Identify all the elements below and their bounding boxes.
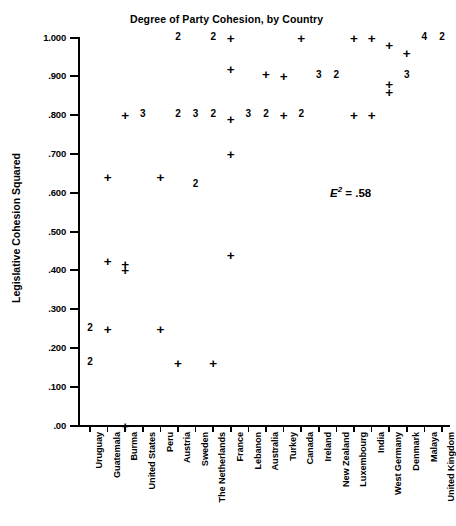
x-axis-label-austria: Austria [182, 432, 192, 526]
y-tick-mark [70, 153, 78, 155]
data-point: 3 [241, 109, 255, 121]
data-point: + [277, 70, 291, 82]
x-tick-mark [388, 427, 390, 432]
data-point: + [365, 32, 379, 44]
data-point: + [224, 113, 238, 125]
x-axis-label-india: India [376, 432, 386, 526]
x-axis-label-west-germany: West Germany [393, 432, 403, 526]
y-tick-mark [70, 192, 78, 194]
data-point: + [118, 109, 132, 121]
x-axis-label-malaya: Malaya [429, 432, 439, 526]
x-tick-mark [177, 427, 179, 432]
data-point: 2 [171, 32, 185, 44]
x-axis-label-new-zealand: New Zealand [341, 432, 351, 526]
data-point: 2 [83, 323, 97, 335]
e-squared-annotation: E2 = .58 [330, 185, 371, 199]
y-tick-label: .300 [24, 303, 66, 314]
x-axis-label-denmark: Denmark [411, 432, 421, 526]
x-axis-label-lebanon: Lebanon [253, 432, 263, 526]
x-tick-mark [371, 427, 373, 432]
x-tick-mark [353, 427, 355, 432]
data-point: + [153, 323, 167, 335]
y-axis-line [78, 37, 80, 427]
e-squared-symbol: E [330, 187, 338, 199]
x-tick-mark [142, 427, 144, 432]
data-point: + [224, 32, 238, 44]
data-point: 2 [435, 32, 449, 44]
y-tick-label: .700 [24, 148, 66, 159]
data-point: + [206, 357, 220, 369]
x-axis-label-united-states: United States [147, 432, 157, 526]
data-point: + [365, 109, 379, 121]
data-point: 2 [206, 109, 220, 121]
y-tick-mark [70, 75, 78, 77]
x-tick-mark [300, 427, 302, 432]
data-point: + [347, 32, 361, 44]
x-tick-mark [406, 427, 408, 432]
data-point: 2 [259, 109, 273, 121]
data-point: + [101, 255, 115, 267]
x-axis-label-turkey: Turkey [288, 432, 298, 526]
x-axis-label-luxembourg: Luxembourg [358, 432, 368, 526]
data-point: 2 [294, 109, 308, 121]
data-point: + [347, 109, 361, 121]
x-tick-mark [230, 427, 232, 432]
y-tick-label: .800 [24, 109, 66, 120]
y-tick-label: .400 [24, 264, 66, 275]
data-point: + [277, 109, 291, 121]
y-tick-label: .900 [24, 70, 66, 81]
y-tick-mark [70, 347, 78, 349]
x-axis-label-australia: Australia [270, 432, 280, 526]
x-tick-mark [107, 427, 109, 432]
x-axis-label-ireland: Ireland [323, 432, 333, 526]
data-point: 3 [136, 109, 150, 121]
y-tick-mark [70, 231, 78, 233]
data-point: 3 [189, 109, 203, 121]
x-tick-mark [195, 427, 197, 432]
x-tick-mark [283, 427, 285, 432]
x-tick-mark [89, 427, 91, 432]
y-tick-mark [70, 37, 78, 39]
chart-title: Degree of Party Cohesion, by Country [130, 13, 450, 25]
y-tick-mark [70, 114, 78, 116]
data-point: + [294, 32, 308, 44]
data-point: + [224, 148, 238, 160]
x-axis-label-guatemala: Guatemala [112, 432, 122, 526]
x-axis-line [78, 425, 450, 427]
data-point: 2 [206, 32, 220, 44]
data-point: 3 [312, 70, 326, 82]
y-tick-label: .600 [24, 187, 66, 198]
y-tick-mark [70, 308, 78, 310]
x-axis-label-united-kingdom: United Kingdom [446, 432, 456, 526]
data-point: + [382, 39, 396, 51]
x-axis-label-the-netherlands: The Netherlands [217, 432, 227, 526]
x-axis-label-canada: Canada [305, 432, 315, 526]
x-tick-mark [424, 427, 426, 432]
e-squared-value: = .58 [342, 187, 371, 199]
data-point: 2 [83, 357, 97, 369]
y-tick-label: .100 [24, 381, 66, 392]
y-tick-label: .200 [24, 342, 66, 353]
x-tick-mark [212, 427, 214, 432]
data-point: 2 [171, 109, 185, 121]
data-point: 2 [189, 179, 203, 191]
y-tick-label: 1.000 [24, 32, 66, 43]
data-point: + [118, 264, 132, 276]
y-tick-mark [70, 425, 78, 427]
data-point: + [153, 171, 167, 183]
data-point: 3 [400, 70, 414, 82]
x-tick-mark [248, 427, 250, 432]
y-tick-mark [70, 269, 78, 271]
data-point: + [224, 249, 238, 261]
data-point: + [400, 47, 414, 59]
x-axis-label-peru: Peru [165, 432, 175, 526]
data-point: + [171, 357, 185, 369]
data-point: + [382, 86, 396, 98]
data-point: 4 [417, 32, 431, 44]
data-point: + [224, 63, 238, 75]
x-axis-label-sweden: Sweden [200, 432, 210, 526]
y-tick-label: .500 [24, 226, 66, 237]
x-axis-label-uruguay: Uruguay [94, 432, 104, 526]
x-tick-mark [336, 427, 338, 432]
